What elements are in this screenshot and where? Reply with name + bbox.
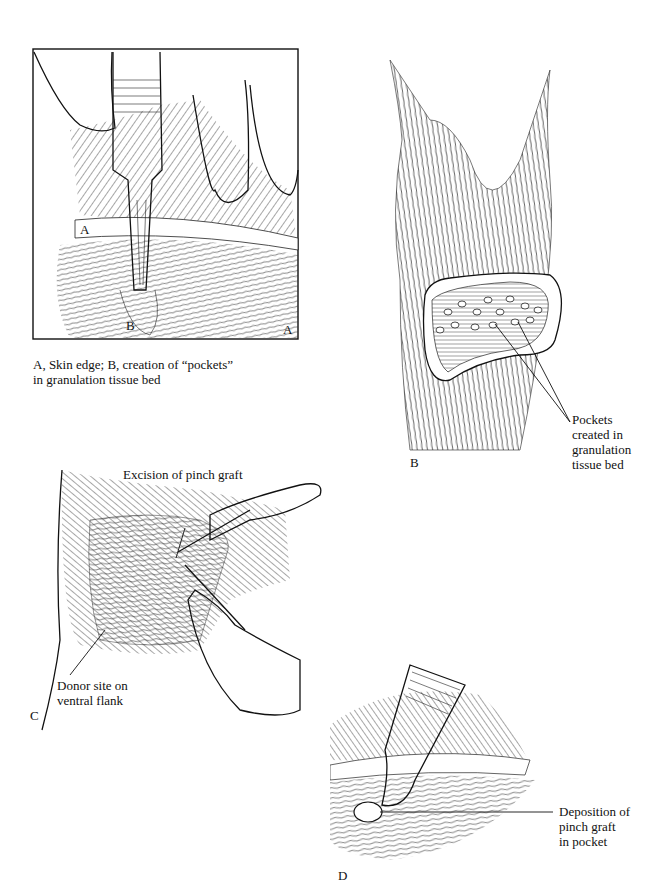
- caption-a-line1: A, Skin edge; B, creation of “pockets”: [33, 357, 233, 372]
- panel-b: B Pockets created in granulation tissue …: [370, 50, 658, 470]
- panel-d-illustration: [330, 650, 658, 894]
- callout-excision: Excision of pinch graft: [123, 467, 243, 482]
- callout-pockets: Pockets created in granulation tissue be…: [572, 412, 631, 472]
- callout-pockets-line1: Pockets: [572, 412, 631, 427]
- panel-c-illustration: [0, 440, 360, 740]
- panel-a: A B A A, Skin edge; B, creation of “pock…: [0, 0, 360, 400]
- callout-donor-line2: ventral flank: [57, 693, 128, 708]
- panel-a-illustration: [0, 0, 360, 400]
- panel-letter-a: A: [283, 322, 292, 338]
- callout-deposition-line2: pinch graft: [559, 819, 630, 834]
- label-pocket: B: [126, 318, 135, 333]
- callout-pockets-line3: granulation: [572, 442, 631, 457]
- callout-deposition-line1: Deposition of: [559, 804, 630, 819]
- callout-donor-site: Donor site on ventral flank: [57, 678, 128, 708]
- label-skin-edge: A: [80, 222, 89, 237]
- panel-b-illustration: [370, 50, 658, 470]
- callout-donor-line1: Donor site on: [57, 678, 128, 693]
- callout-deposition: Deposition of pinch graft in pocket: [559, 804, 630, 849]
- callout-pockets-line4: tissue bed: [572, 457, 631, 472]
- panel-c: Excision of pinch graft Donor site on ve…: [0, 440, 360, 740]
- panel-letter-b: B: [410, 455, 419, 471]
- panel-letter-c: C: [30, 708, 39, 724]
- callout-deposition-line3: in pocket: [559, 834, 630, 849]
- caption-a-line2: in granulation tissue bed: [33, 372, 160, 387]
- panel-d: Deposition of pinch graft in pocket D: [330, 650, 658, 894]
- panel-letter-d: D: [338, 868, 347, 884]
- callout-pockets-line2: created in: [572, 427, 631, 442]
